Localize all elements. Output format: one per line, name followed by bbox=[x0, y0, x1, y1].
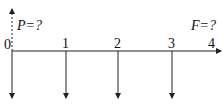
diagram-graphics bbox=[0, 0, 223, 105]
period-label-1: 1 bbox=[62, 37, 69, 51]
present-value-label: P=? bbox=[17, 19, 42, 33]
period-label-3: 3 bbox=[168, 37, 175, 51]
period-label-4: 4 bbox=[208, 37, 215, 51]
future-value-label: F=? bbox=[191, 19, 216, 33]
cash-flow-diagram: 0 1 2 3 4 P=? F=? bbox=[0, 0, 223, 105]
period-label-2: 2 bbox=[114, 37, 121, 51]
period-label-0: 0 bbox=[4, 38, 11, 52]
